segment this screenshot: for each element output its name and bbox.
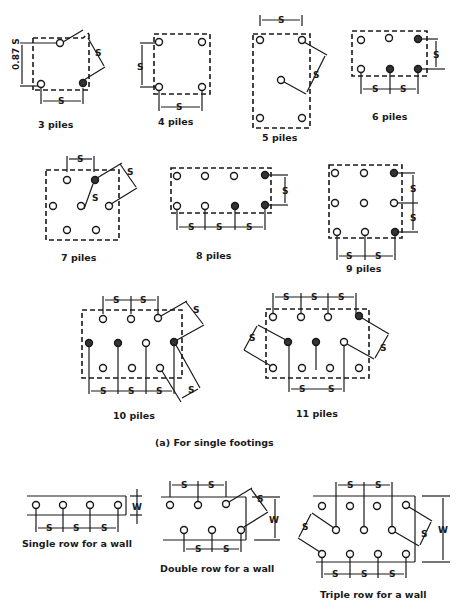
svg-text:S: S	[346, 251, 352, 261]
section-a-caption: (a) For single footings	[155, 437, 274, 448]
caption-3-piles: 3 piles	[38, 119, 74, 130]
pile-icon	[115, 340, 122, 347]
wall-double-row: W S S S S S Double row for a wall	[160, 480, 280, 574]
pile-icon	[80, 80, 87, 87]
svg-text:S: S	[433, 50, 439, 60]
svg-text:S: S	[193, 305, 199, 315]
pile-icon	[181, 527, 188, 534]
svg-text:S: S	[410, 184, 416, 194]
pile-icon	[319, 503, 326, 510]
caption-8-piles: 8 piles	[196, 250, 232, 261]
pile-icon	[129, 365, 136, 372]
caption-11-piles: 11 piles	[296, 408, 338, 419]
pile-icon	[358, 37, 365, 44]
svg-text:S: S	[283, 292, 289, 302]
svg-text:S: S	[46, 523, 52, 533]
svg-text:S: S	[332, 569, 338, 579]
svg-text:S: S	[347, 480, 353, 490]
svg-text:S: S	[223, 544, 229, 554]
svg-text:S: S	[188, 385, 194, 395]
pile-icon	[391, 200, 398, 207]
pile-group-8: S S S S 8 piles	[171, 168, 288, 261]
caption-single-row: Single row for a wall	[22, 538, 132, 549]
pile-icon	[332, 200, 339, 207]
pile-icon	[199, 84, 206, 91]
svg-text:S: S	[380, 343, 386, 353]
pile-icon	[298, 314, 305, 321]
pile-icon	[33, 502, 40, 509]
pile-icon	[334, 229, 341, 236]
svg-text:S: S	[421, 529, 427, 539]
pile-icon	[262, 202, 269, 209]
svg-text:S: S	[328, 384, 334, 394]
pile-arrangement-diagram: 0.87 S S S 3 piles S S 4 piles S	[0, 0, 471, 616]
pile-icon	[174, 173, 181, 180]
svg-text:S: S	[58, 96, 64, 106]
pile-icon	[171, 339, 178, 346]
svg-text:S: S	[188, 222, 194, 232]
pile-icon	[232, 203, 239, 210]
svg-text:S: S	[113, 295, 119, 305]
pile-icon	[361, 200, 368, 207]
pile-icon	[209, 527, 216, 534]
svg-text:S: S	[95, 48, 101, 58]
svg-text:S: S	[257, 494, 263, 504]
pile-icon	[156, 84, 163, 91]
wall-single-row: W S S S Single row for a wall	[22, 489, 142, 549]
svg-text:S: S	[181, 480, 187, 490]
pile-icon	[100, 316, 107, 323]
svg-text:S: S	[400, 84, 406, 94]
pile-icon	[327, 365, 334, 372]
pile-icon	[231, 173, 238, 180]
pile-icon	[128, 316, 135, 323]
caption-triple-row: Triple row for a wall	[320, 589, 427, 600]
pile-icon	[50, 203, 57, 210]
pile-icon	[100, 365, 107, 372]
pile-icon	[341, 339, 348, 346]
pile-icon	[347, 503, 354, 510]
pile-icon	[325, 314, 332, 321]
svg-text:W: W	[132, 502, 142, 512]
svg-text:S: S	[77, 154, 83, 164]
pile-icon	[415, 36, 422, 43]
svg-text:W: W	[269, 515, 279, 525]
caption-6-piles: 6 piles	[372, 111, 408, 122]
svg-text:S: S	[249, 333, 255, 343]
pile-icon	[87, 502, 94, 509]
pile-group-9: S S S S 9 piles	[329, 165, 418, 274]
caption-10-piles: 10 piles	[113, 410, 155, 421]
pile-icon	[93, 227, 100, 234]
pile-icon	[313, 339, 320, 346]
pile-icon	[257, 37, 264, 44]
svg-text:S: S	[389, 569, 395, 579]
svg-text:S: S	[92, 193, 98, 203]
svg-text:S: S	[101, 523, 107, 533]
pile-icon	[86, 340, 93, 347]
pile-icon	[299, 365, 306, 372]
svg-text:S: S	[372, 84, 378, 94]
pile-icon	[115, 502, 122, 509]
pile-icon	[358, 66, 365, 73]
pile-icon	[78, 203, 85, 210]
pile-group-6: S S S 6 piles	[352, 31, 445, 122]
svg-text:S: S	[128, 386, 134, 396]
pile-icon	[202, 203, 209, 210]
svg-text:S: S	[375, 251, 381, 261]
svg-text:S: S	[299, 384, 305, 394]
pile-icon	[155, 315, 162, 322]
caption-7-piles: 7 piles	[61, 252, 97, 263]
svg-text:S: S	[156, 386, 162, 396]
svg-text:S: S	[137, 62, 143, 72]
pile-icon	[403, 502, 410, 509]
pile-icon	[361, 527, 368, 534]
svg-text:S: S	[278, 15, 284, 25]
pile-group-3: 0.87 S S S 3 piles	[11, 30, 105, 130]
pile-icon	[64, 177, 71, 184]
svg-text:S: S	[361, 569, 367, 579]
pile-icon	[202, 173, 209, 180]
pile-icon	[361, 170, 368, 177]
pile-icon	[278, 77, 285, 84]
svg-text:S: S	[127, 167, 133, 177]
pile-icon	[167, 502, 174, 509]
pile-icon	[386, 35, 393, 42]
